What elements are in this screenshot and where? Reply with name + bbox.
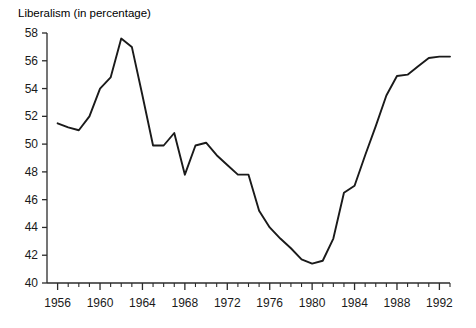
x-axis-tick-label: 1980 — [299, 296, 326, 310]
y-axis-tick-label: 50 — [25, 137, 39, 151]
x-axis-tick-label: 1964 — [129, 296, 156, 310]
liberalism-line-chart: Liberalism (in percentage) 4042444648505… — [0, 0, 476, 328]
y-axis-tick-label: 58 — [25, 26, 39, 40]
y-axis-tick-label: 42 — [25, 248, 39, 262]
data-series-group — [58, 39, 450, 264]
chart-container: Liberalism (in percentage) 4042444648505… — [0, 0, 476, 328]
x-axis-tick-label: 1960 — [87, 296, 114, 310]
y-axis-tick-label: 48 — [25, 165, 39, 179]
y-axis: 40424446485052545658 — [25, 26, 47, 290]
data-series-line — [58, 39, 450, 264]
x-axis: 1956196019641968197219761980198419881992 — [44, 283, 453, 310]
y-axis-tick-label: 56 — [25, 54, 39, 68]
x-axis-tick-label: 1992 — [426, 296, 453, 310]
x-axis-tick-label: 1976 — [256, 296, 283, 310]
chart-title-group: Liberalism (in percentage) — [18, 7, 151, 19]
x-axis-tick-label: 1956 — [44, 296, 71, 310]
y-axis-tick-label: 52 — [25, 109, 39, 123]
y-axis-tick-label: 54 — [25, 82, 39, 96]
x-axis-tick-label: 1984 — [341, 296, 368, 310]
x-axis-tick-label: 1968 — [172, 296, 199, 310]
y-axis-tick-label: 40 — [25, 276, 39, 290]
x-axis-tick-label: 1972 — [214, 296, 241, 310]
y-axis-tick-label: 44 — [25, 220, 39, 234]
chart-title: Liberalism (in percentage) — [18, 7, 151, 19]
x-axis-tick-label: 1988 — [384, 296, 411, 310]
y-axis-tick-label: 46 — [25, 193, 39, 207]
